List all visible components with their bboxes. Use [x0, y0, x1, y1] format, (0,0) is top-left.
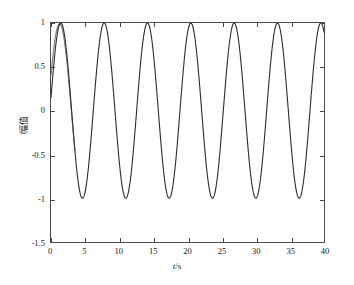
y-tick-label: 0.5 — [19, 61, 45, 71]
series-line-primary — [51, 23, 324, 198]
y-tick-right — [320, 156, 324, 157]
x-tick-top — [85, 23, 86, 27]
y-tick-right — [320, 67, 324, 68]
y-tick-label: -0.5 — [19, 150, 45, 160]
y-tick — [51, 67, 55, 68]
y-tick — [51, 111, 55, 112]
x-tick-label: 30 — [241, 246, 271, 256]
x-axis-title-unit: /s — [175, 261, 181, 271]
plot-area — [50, 22, 325, 243]
x-tick — [189, 238, 190, 242]
y-tick — [51, 23, 55, 24]
x-tick — [292, 238, 293, 242]
x-tick-top — [257, 23, 258, 27]
series-line-overlay — [51, 24, 75, 151]
x-tick — [257, 238, 258, 242]
figure-sinusoid-plot: 0510152025303540 10.50-0.5-1-1.5 t/s 幅值 — [0, 0, 354, 285]
x-tick-label: 35 — [276, 246, 306, 256]
y-axis-title: 幅值 — [17, 116, 30, 134]
y-tick-label: -1 — [19, 194, 45, 204]
x-tick — [120, 238, 121, 242]
x-tick — [154, 238, 155, 242]
x-tick-top — [292, 23, 293, 27]
x-tick-label: 5 — [69, 246, 99, 256]
x-tick-top — [189, 23, 190, 27]
x-tick-label: 40 — [310, 246, 340, 256]
x-tick-top — [120, 23, 121, 27]
x-tick-label: 20 — [173, 246, 203, 256]
x-tick-label: 10 — [104, 246, 134, 256]
x-tick — [85, 238, 86, 242]
x-axis-title: t/s — [0, 261, 354, 271]
waveform-canvas — [51, 23, 324, 242]
x-tick-top — [154, 23, 155, 27]
y-tick-label: 0 — [19, 105, 45, 115]
y-tick — [51, 156, 55, 157]
x-tick — [223, 238, 224, 242]
x-tick-label: 15 — [138, 246, 168, 256]
x-tick — [51, 238, 52, 242]
y-tick-right — [320, 23, 324, 24]
y-tick-right — [320, 111, 324, 112]
x-tick-top — [223, 23, 224, 27]
y-tick-label: -1.5 — [19, 238, 45, 248]
y-tick-label: 1 — [19, 17, 45, 27]
y-tick-right — [320, 200, 324, 201]
y-tick — [51, 200, 55, 201]
x-tick-label: 25 — [207, 246, 237, 256]
